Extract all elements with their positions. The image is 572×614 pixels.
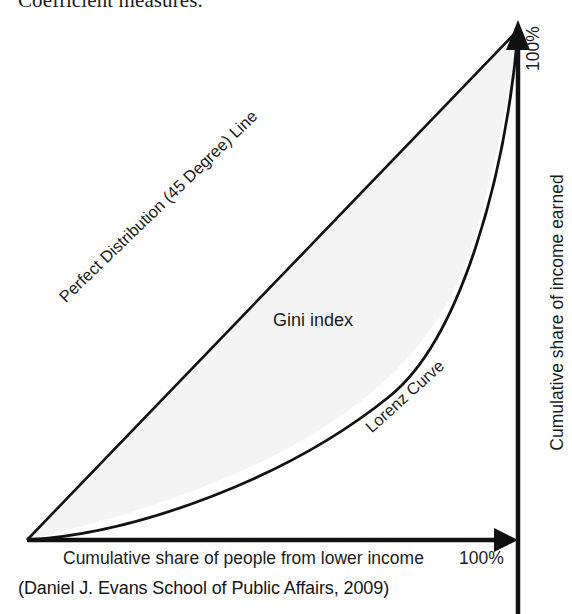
x-axis-max-tick-label: 100% xyxy=(459,548,504,569)
y-axis-max-tick-label: 100% xyxy=(523,26,544,71)
y-axis-label: Cumulative share of income earned xyxy=(547,174,568,450)
gini-lorenz-plot xyxy=(0,0,572,614)
x-axis-label: Cumulative share of people from lower in… xyxy=(63,548,424,569)
figure-source-caption: (Daniel J. Evans School of Public Affair… xyxy=(18,578,389,599)
lorenz-curve-figure: Coefficient measures. Cumulative share o… xyxy=(0,0,572,614)
gini-index-area-label: Gini index xyxy=(273,310,353,331)
